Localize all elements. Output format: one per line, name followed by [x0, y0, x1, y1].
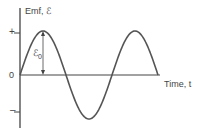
y-tick-minus: –	[10, 105, 16, 115]
amplitude-label: ℰ0	[33, 48, 42, 62]
y-axis-label: Emf, ℰ	[25, 6, 51, 16]
amplitude-arrowhead-down	[41, 70, 45, 75]
amplitude-subscript: 0	[38, 53, 42, 60]
emf-sine-chart	[0, 0, 204, 136]
x-axis-label: Time, t	[164, 79, 191, 89]
y-tick-zero: 0	[9, 70, 14, 80]
y-tick-plus: +	[9, 27, 15, 37]
